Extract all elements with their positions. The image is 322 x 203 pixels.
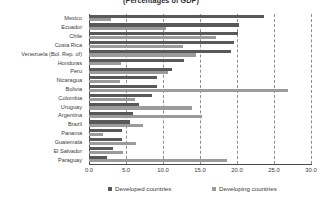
x-tick-label: 25.0 — [268, 167, 279, 173]
x-tick-label: 15.0 — [194, 167, 205, 173]
bar-row — [89, 102, 311, 111]
y-tick-label: Honduras — [0, 60, 82, 66]
bar-chile-developing — [89, 36, 216, 39]
bar-row — [89, 32, 311, 41]
bar-costa-rica-developing — [89, 45, 183, 48]
y-tick-label: Costa Rica — [0, 42, 82, 48]
gridline — [311, 14, 312, 164]
bar-mexico-developed — [89, 15, 264, 18]
y-tick-label: Mexico — [0, 15, 82, 21]
legend-swatch-developing-icon — [212, 187, 216, 191]
bar-rows — [89, 14, 311, 164]
chart-legend: Developed countriesDeveloping countries — [0, 185, 322, 197]
x-tick-label: 0.0 — [85, 167, 93, 173]
bar-ecuador-developing — [89, 27, 166, 30]
chart-title: (Percentages of GDP) — [0, 0, 322, 5]
y-tick-label: Venezuela (Bol. Rep. of) — [0, 51, 82, 57]
bar-guatemala-developing — [89, 142, 136, 145]
bar-row — [89, 111, 311, 120]
bar-el-salvador-developing — [89, 151, 123, 154]
legend-label: Developed countries — [115, 185, 171, 192]
y-tick-label: Chile — [0, 33, 82, 39]
x-tick-label: 20.0 — [231, 167, 242, 173]
y-tick-label: El Salvador — [0, 148, 82, 154]
bar-row — [89, 67, 311, 76]
x-axis-line — [89, 164, 312, 165]
bar-row — [89, 93, 311, 102]
bar-row — [89, 76, 311, 85]
bar-uruguay-developing — [89, 106, 192, 109]
x-axis-tick-labels: 0.05.010.015.020.025.030.0 — [0, 167, 322, 177]
bar-row — [89, 14, 311, 23]
y-tick-label: Paraguay — [0, 157, 82, 163]
y-tick-label: Guatemala — [0, 139, 82, 145]
y-tick-label: Ecuador — [0, 24, 82, 30]
legend-label: Developing countries — [219, 185, 277, 192]
bar-row — [89, 85, 311, 94]
bar-colombia-developing — [89, 98, 135, 101]
bar-row — [89, 129, 311, 138]
plot-area — [89, 14, 311, 164]
y-tick-label: Peru — [0, 68, 82, 74]
x-tick-label: 30.0 — [305, 167, 316, 173]
bar-venezuela-bol-rep-of-developing — [89, 53, 196, 56]
legend-item-developed[interactable]: Developed countries — [108, 185, 171, 192]
y-tick-label: Colombia — [0, 95, 82, 101]
bar-honduras-developing — [89, 62, 121, 65]
bar-paraguay-developing — [89, 159, 227, 162]
bar-row — [89, 120, 311, 129]
bar-nicaragua-developing — [89, 80, 120, 83]
chart-container: (Percentages of GDP) MexicoEcuadorChileC… — [0, 0, 322, 203]
bar-panama-developing — [89, 133, 103, 136]
bar-row — [89, 138, 311, 147]
x-tick-label: 5.0 — [122, 167, 130, 173]
y-tick-label: Nicaragua — [0, 77, 82, 83]
legend-swatch-developed-icon — [108, 187, 112, 191]
bar-row — [89, 146, 311, 155]
bar-brazil-developing — [89, 124, 143, 127]
y-tick-label: Brazil — [0, 121, 82, 127]
y-tick-label: Uruguay — [0, 104, 82, 110]
x-tick-label: 10.0 — [157, 167, 168, 173]
y-tick-label: Argentina — [0, 112, 82, 118]
bar-row — [89, 155, 311, 164]
y-axis-tick-labels: MexicoEcuadorChileCosta RicaVenezuela (B… — [0, 14, 86, 164]
bar-argentina-developing — [89, 115, 202, 118]
bar-peru-developing — [89, 71, 168, 74]
bar-row — [89, 23, 311, 32]
y-tick-label: Panama — [0, 130, 82, 136]
y-tick-label: Bolivia — [0, 86, 82, 92]
bar-mexico-developing — [89, 18, 111, 21]
bar-bolivia-developing — [89, 89, 288, 92]
legend-item-developing[interactable]: Developing countries — [212, 185, 277, 192]
bar-row — [89, 58, 311, 67]
bar-row — [89, 40, 311, 49]
bar-row — [89, 49, 311, 58]
